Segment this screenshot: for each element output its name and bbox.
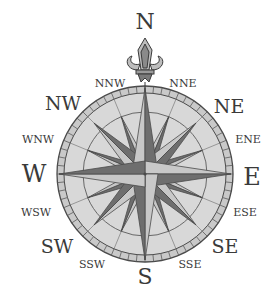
label-wsw: WSW [21, 206, 52, 219]
compass-rose-figure: N NNW NNE NW NE WNW ENE W E WSW ESE SW S… [0, 0, 279, 303]
label-sw: SW [41, 235, 74, 257]
label-n: N [135, 9, 154, 34]
label-ene: ENE [235, 133, 261, 146]
label-w: W [22, 160, 47, 188]
label-s: S [137, 264, 152, 289]
label-se: SE [212, 235, 239, 257]
label-ese: ESE [233, 206, 257, 219]
label-ssw: SSW [79, 258, 106, 271]
label-nnw: NNW [95, 77, 126, 90]
label-nw: NW [45, 92, 82, 114]
label-nne: NNE [169, 77, 196, 90]
label-sse: SSE [179, 258, 202, 271]
label-ne: NE [214, 95, 245, 117]
label-e: E [243, 163, 261, 191]
fleur-de-lis-icon [127, 38, 163, 88]
label-wnw: WNW [22, 133, 55, 146]
